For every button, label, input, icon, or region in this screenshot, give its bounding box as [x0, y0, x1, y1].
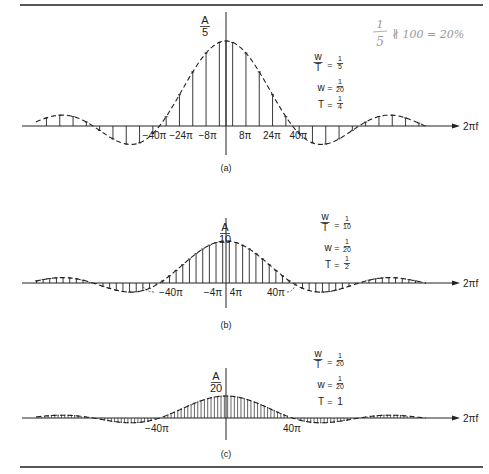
param-equals: = [327, 83, 332, 93]
x-axis-arrow-icon [452, 281, 460, 286]
tick-label: 4π [230, 287, 243, 298]
param-lhs: T [325, 259, 331, 270]
param-lhs: w [316, 82, 325, 93]
chart-panel-2: 2πfA10−40π−4π4π40πwT=110w=120T=12(b) [22, 211, 478, 330]
fraction-numerator: 1 [338, 78, 342, 85]
note-denominator: 5 [376, 35, 384, 49]
param-equals: = [327, 60, 332, 70]
param-rhs: 1 [337, 396, 343, 407]
fraction-denominator: 2 [345, 263, 349, 270]
x-axis-arrow-icon [452, 124, 460, 129]
param-lhs: T [318, 99, 324, 110]
sinc-spectrum-figure: 2πfA5−40π−24π−8π8π24π40πwT=15w=120T=14(a… [0, 0, 489, 474]
tick-label: −24π [169, 130, 193, 141]
tick-label: −4π [204, 287, 222, 298]
fraction-numerator: w [320, 211, 329, 222]
param-rhs: 120 [343, 238, 351, 253]
x-axis-arrow-icon [452, 416, 460, 421]
fraction-numerator: w [313, 51, 322, 62]
fraction-numerator: A [201, 14, 209, 26]
param-lhs: w [323, 242, 332, 253]
param-equals: = [327, 380, 332, 390]
param-lhs: T [318, 396, 324, 407]
fraction-denominator: 20 [210, 382, 222, 394]
fraction-numerator: 1 [345, 255, 349, 262]
tick-label: 40π [283, 423, 301, 434]
param-lhs: wT [313, 51, 322, 73]
fraction-denominator: 5 [338, 63, 342, 70]
note-bar [373, 31, 387, 32]
param-rhs: 120 [336, 352, 344, 367]
note-text: ∦ 100 = 20% [392, 28, 464, 41]
fraction-denominator: 4 [338, 103, 342, 110]
fraction-numerator: 1 [345, 215, 349, 222]
panel-caption: (a) [221, 163, 232, 173]
handwritten-note: 15∦ 100 = 20% [373, 18, 464, 49]
sinc-envelope [36, 41, 426, 145]
fraction-denominator: T [322, 222, 328, 233]
panel-caption: (b) [221, 320, 232, 330]
fraction-denominator: T [315, 359, 321, 370]
fraction-denominator: 5 [202, 26, 208, 38]
note-numerator: 1 [377, 18, 384, 31]
param-rhs: 15 [337, 55, 343, 70]
x-axis-label: 2πf [463, 278, 478, 289]
tick-label: 40π [267, 287, 285, 298]
param-equals: = [327, 100, 332, 110]
param-lhs: w [316, 379, 325, 390]
param-equals: = [327, 357, 332, 367]
tick-label: −8π [199, 130, 217, 141]
fraction-numerator: A [221, 221, 229, 233]
fraction-numerator: 1 [338, 95, 342, 102]
tick-label: −40π [159, 287, 183, 298]
pointer-arrow [287, 285, 295, 292]
param-lhs: wT [320, 211, 329, 233]
y-axis-label: A5 [200, 14, 210, 38]
x-axis-label: 2πf [463, 121, 478, 132]
fraction-numerator: 1 [345, 238, 349, 245]
param-rhs: 120 [336, 375, 344, 390]
fraction-denominator: 20 [336, 360, 344, 367]
param-rhs: 110 [343, 215, 351, 230]
fraction-numerator: 1 [338, 375, 342, 382]
tick-label: 8π [239, 130, 252, 141]
fraction-denominator: 20 [336, 86, 344, 93]
param-lhs: wT [313, 348, 322, 370]
y-axis-label: A20 [210, 370, 222, 394]
param-equals: = [327, 397, 332, 407]
fraction-denominator: T [315, 62, 321, 73]
param-rhs: 120 [336, 78, 344, 93]
chart-panel-3: 2πfA20−40π40πwT=120w=120T=1(c) [22, 348, 478, 459]
fraction-denominator: 20 [336, 383, 344, 390]
param-equals: = [334, 220, 339, 230]
panel-caption: (c) [221, 449, 232, 459]
param-rhs: 12 [344, 255, 350, 270]
fraction-numerator: w [313, 348, 322, 359]
tick-label: −40π [143, 130, 167, 141]
fraction-denominator: 10 [343, 223, 351, 230]
x-axis-label: 2πf [463, 413, 478, 424]
fraction-numerator: A [212, 370, 220, 382]
fraction-numerator: 1 [338, 55, 342, 62]
tick-label: 40π [289, 130, 307, 141]
tick-label: −40π [145, 423, 169, 434]
tick-label: 24π [263, 130, 281, 141]
param-rhs: 14 [337, 95, 343, 110]
param-equals: = [334, 260, 339, 270]
sinc-envelope [36, 241, 426, 292]
fraction-numerator: 1 [338, 352, 342, 359]
fraction-denominator: 20 [343, 246, 351, 253]
param-equals: = [334, 243, 339, 253]
